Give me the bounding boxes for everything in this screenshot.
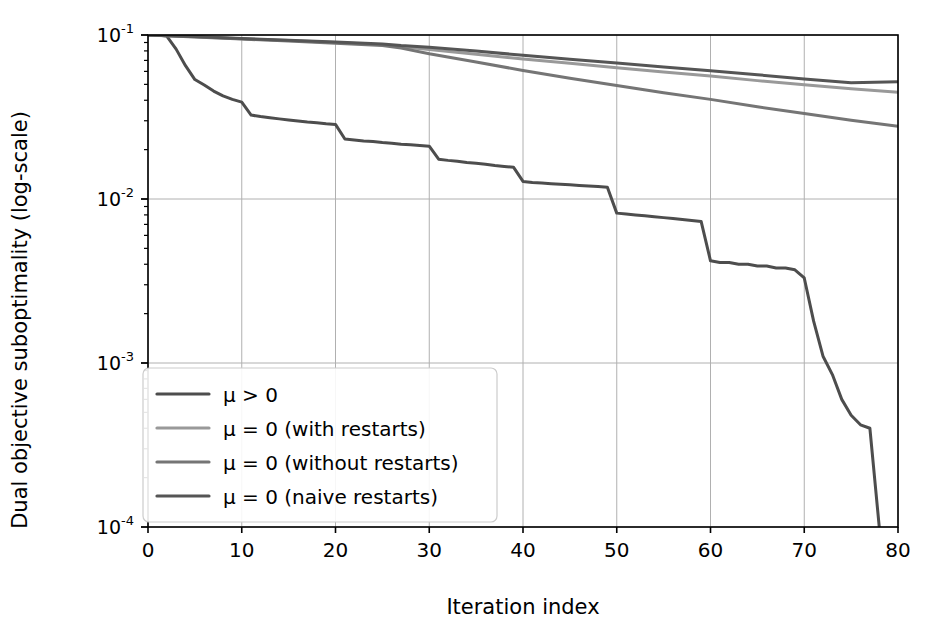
legend-label-3[interactable]: μ = 0 (naive restarts)	[223, 485, 438, 509]
x-tick-label: 30	[417, 538, 442, 562]
x-tick-label: 50	[604, 538, 629, 562]
x-tick-label: 0	[142, 538, 155, 562]
x-tick-label: 20	[323, 538, 348, 562]
legend-label-0[interactable]: μ > 0	[223, 383, 278, 407]
y-tick-label: 10-1	[97, 21, 134, 46]
chart-figure: Dual objective suboptimality (log-scale)…	[0, 0, 927, 640]
legend-label-2[interactable]: μ = 0 (without restarts)	[223, 451, 459, 475]
legend[interactable]: μ > 0μ = 0 (with restarts)μ = 0 (without…	[143, 368, 497, 522]
x-tick-label: 60	[698, 538, 723, 562]
plot-area: 0102030405060708010-110-210-310-4 μ > 0μ…	[0, 0, 927, 640]
x-tick-label: 40	[510, 538, 535, 562]
legend-label-1[interactable]: μ = 0 (with restarts)	[223, 417, 426, 441]
x-tick-label: 80	[885, 538, 910, 562]
y-tick-label: 10-4	[97, 513, 134, 538]
x-tick-label: 70	[792, 538, 817, 562]
y-tick-label: 10-2	[97, 185, 134, 210]
y-tick-label: 10-3	[97, 349, 134, 374]
x-tick-label: 10	[229, 538, 254, 562]
